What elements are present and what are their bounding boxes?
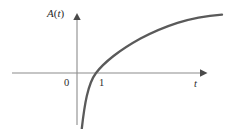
y-axis-label-close-paren: )	[60, 7, 64, 19]
x-axis-label: t	[194, 79, 197, 90]
x-tick-label-zero: 0	[64, 78, 69, 89]
y-axis-label: A(t)	[47, 8, 64, 19]
logarithm-figure: A(t) t 0 1	[0, 0, 229, 129]
y-axis-arrowhead	[73, 13, 80, 20]
plot-canvas	[0, 0, 229, 129]
y-axis-label-variable: A	[47, 7, 54, 19]
x-tick-label-one: 1	[99, 78, 104, 89]
x-axis-arrowhead	[200, 69, 208, 77]
